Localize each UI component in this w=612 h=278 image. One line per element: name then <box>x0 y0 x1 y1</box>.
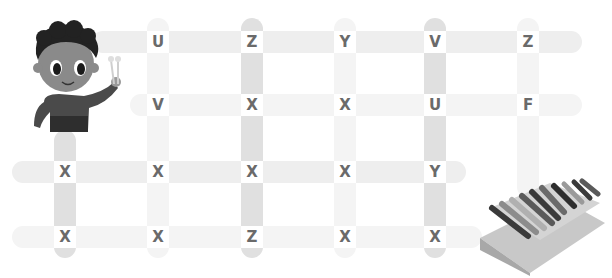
letter-cell[interactable]: U <box>424 94 446 116</box>
letter-cell[interactable]: U <box>147 31 169 53</box>
maze-board: U Z Y V Z V X X U F X X X X Y X X Z X X <box>0 0 612 278</box>
letter-cell[interactable]: X <box>334 226 356 248</box>
letter-cell[interactable]: X <box>334 161 356 183</box>
letter-cell[interactable]: X <box>54 161 76 183</box>
letter-cell[interactable]: F <box>517 94 539 116</box>
letter-cell[interactable]: Z <box>517 31 539 53</box>
letter-cell[interactable]: X <box>54 226 76 248</box>
boy-holding-mallets-icon <box>14 12 124 137</box>
letter-cell[interactable]: Z <box>241 31 263 53</box>
letter-cell[interactable]: X <box>147 226 169 248</box>
letter-cell[interactable]: V <box>424 31 446 53</box>
col-bar-3 <box>334 18 356 258</box>
letter-cell[interactable]: X <box>334 94 356 116</box>
letter-cell[interactable]: X <box>241 161 263 183</box>
col-bar-2 <box>241 18 263 258</box>
col-bar-4 <box>424 18 446 258</box>
row-bar-2 <box>130 94 582 116</box>
letter-cell[interactable]: X <box>424 226 446 248</box>
letter-cell[interactable]: X <box>147 161 169 183</box>
letter-cell[interactable]: V <box>147 94 169 116</box>
letter-cell[interactable]: Y <box>424 161 446 183</box>
row-bar-3 <box>12 161 466 183</box>
xylophone-icon <box>470 178 610 276</box>
letter-cell[interactable]: Y <box>334 31 356 53</box>
letter-cell[interactable]: X <box>241 94 263 116</box>
col-bar-1 <box>147 18 169 258</box>
letter-cell[interactable]: Z <box>241 226 263 248</box>
